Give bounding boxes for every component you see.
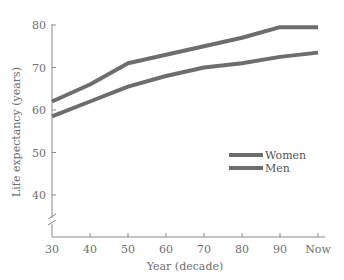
x-axis-ticks: 30405060708090Now [45, 233, 331, 256]
x-tick-label: 60 [159, 243, 173, 256]
x-tick-label: 40 [83, 243, 97, 256]
x-tick-label: Now [305, 243, 331, 256]
y-tick-label: 50 [32, 147, 46, 160]
series-line-women [52, 27, 318, 101]
x-tick-label: 80 [235, 243, 249, 256]
y-tick-label: 80 [32, 19, 46, 32]
x-tick-label: 50 [121, 243, 135, 256]
life-expectancy-chart: 4050607080 30405060708090Now WomenMen Ye… [0, 0, 344, 280]
y-axis-title: Life expectancy (years) [10, 67, 23, 197]
data-series [52, 27, 318, 116]
y-tick-label: 40 [32, 189, 46, 202]
y-tick-label: 70 [32, 62, 46, 75]
x-tick-label: 90 [273, 243, 287, 256]
legend-label: Women [265, 149, 306, 162]
x-axis-title: Year (decade) [146, 260, 224, 273]
x-tick-label: 30 [45, 243, 59, 256]
y-tick-label: 60 [32, 104, 46, 117]
legend-item-men: Men [229, 162, 290, 175]
legend-item-women: Women [229, 149, 306, 162]
x-tick-label: 70 [197, 243, 211, 256]
legend-label: Men [265, 162, 290, 175]
legend: WomenMen [229, 149, 306, 175]
